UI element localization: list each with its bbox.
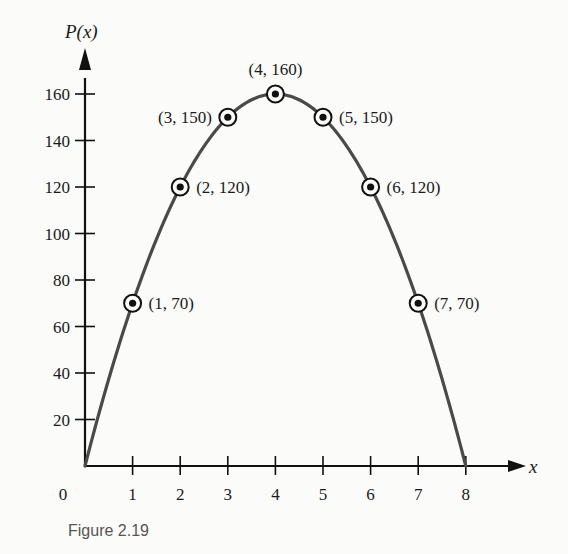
figure-caption: Figure 2.19 bbox=[68, 522, 149, 539]
point-label: (6, 120) bbox=[387, 178, 441, 197]
point-dot-icon bbox=[319, 114, 326, 121]
y-tick-label: 140 bbox=[45, 132, 71, 151]
point-dot-icon bbox=[224, 114, 231, 121]
x-axis-arrow-icon bbox=[508, 460, 526, 472]
point-dot-icon bbox=[272, 90, 279, 97]
axes bbox=[79, 48, 526, 472]
y-tick-label: 40 bbox=[53, 364, 70, 383]
point-dot-icon bbox=[367, 183, 374, 190]
point-dot-icon bbox=[415, 300, 422, 307]
curve bbox=[85, 94, 466, 466]
y-tick-label: 20 bbox=[53, 411, 70, 430]
data-points: (1, 70)(2, 120)(3, 150)(4, 160)(5, 150)(… bbox=[124, 60, 479, 313]
point-dot-icon bbox=[129, 300, 136, 307]
point-label: (3, 150) bbox=[158, 108, 212, 127]
x-tick-label: 3 bbox=[224, 485, 233, 504]
y-axis-label: P(x) bbox=[64, 21, 98, 43]
x-tick-label: 1 bbox=[128, 485, 137, 504]
y-tick-label: 80 bbox=[53, 271, 70, 290]
point-label: (1, 70) bbox=[149, 294, 194, 313]
point-label: (7, 70) bbox=[434, 294, 479, 313]
y-tick-label: 60 bbox=[53, 318, 70, 337]
y-tick-label: 100 bbox=[45, 225, 71, 244]
x-tick-label: 5 bbox=[319, 485, 328, 504]
point-dot-icon bbox=[177, 183, 184, 190]
x-tick-label: 4 bbox=[271, 485, 280, 504]
y-axis-arrow-icon bbox=[79, 48, 91, 70]
x-tick-label: 7 bbox=[414, 485, 423, 504]
x-tick-label: 0 bbox=[59, 485, 68, 504]
point-label: (4, 160) bbox=[248, 60, 302, 79]
x-tick-label: 6 bbox=[366, 485, 375, 504]
data-point: (7, 70) bbox=[410, 294, 480, 313]
point-label: (2, 120) bbox=[196, 178, 250, 197]
x-tick-label: 8 bbox=[462, 485, 471, 504]
data-point: (5, 150) bbox=[315, 108, 393, 127]
data-point: (2, 120) bbox=[172, 178, 250, 197]
y-tick-label: 120 bbox=[45, 178, 71, 197]
x-tick-label: 2 bbox=[176, 485, 185, 504]
point-label: (5, 150) bbox=[339, 108, 393, 127]
y-tick-label: 160 bbox=[45, 85, 71, 104]
data-point: (1, 70) bbox=[124, 294, 194, 313]
x-axis-label: x bbox=[528, 456, 538, 477]
data-point: (3, 150) bbox=[158, 108, 236, 127]
parabola-curve bbox=[85, 94, 466, 466]
data-point: (6, 120) bbox=[362, 178, 440, 197]
axis-ticks: 01234567820406080100120140160 bbox=[45, 85, 471, 504]
chart-figure: 01234567820406080100120140160 (1, 70)(2,… bbox=[0, 0, 568, 554]
